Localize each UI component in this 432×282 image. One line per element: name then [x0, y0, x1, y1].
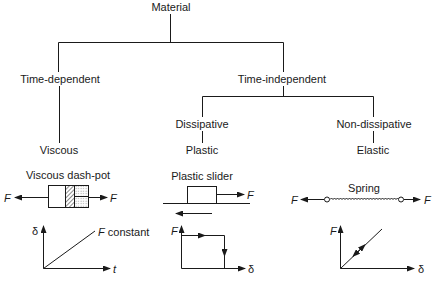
leaf-viscous: Viscous	[40, 144, 78, 156]
dashpot-symbol	[15, 186, 107, 208]
dashpot-force-left: F	[4, 192, 11, 204]
spring-title: Spring	[348, 182, 380, 194]
plastic-graph	[182, 226, 246, 269]
diagram-lines	[0, 0, 432, 282]
graph1-y-label: δ	[32, 225, 38, 237]
spring-force-left: F	[291, 194, 298, 206]
spring-force-right: F	[424, 194, 431, 206]
node-material: Material	[151, 1, 190, 13]
slider-symbol	[163, 187, 250, 214]
graph2-y-label: F	[171, 225, 178, 237]
node-time-dependent: Time-dependent	[20, 73, 100, 85]
elastic-graph	[341, 226, 415, 269]
graph3-x-label: δ	[418, 263, 424, 275]
graph1-x-label: t	[113, 263, 116, 275]
dashpot-title: Viscous dash-pot	[26, 169, 110, 181]
node-non-dissipative: Non-dissipative	[336, 118, 411, 130]
graph1-annotation: F constant	[98, 226, 149, 238]
dashpot-force-right: F	[110, 192, 117, 204]
material-classification-diagram: Material Time-dependent Time-independent…	[0, 0, 432, 282]
slider-force-right: F	[247, 189, 254, 201]
leaf-plastic: Plastic	[186, 144, 218, 156]
graph2-x-label: δ	[248, 263, 254, 275]
node-dissipative: Dissipative	[175, 118, 228, 130]
node-time-independent: Time-independent	[238, 73, 326, 85]
graph3-y-label: F	[330, 225, 337, 237]
slider-title: Plastic slider	[171, 170, 233, 182]
spring-symbol	[301, 197, 420, 202]
leaf-elastic: Elastic	[357, 144, 389, 156]
